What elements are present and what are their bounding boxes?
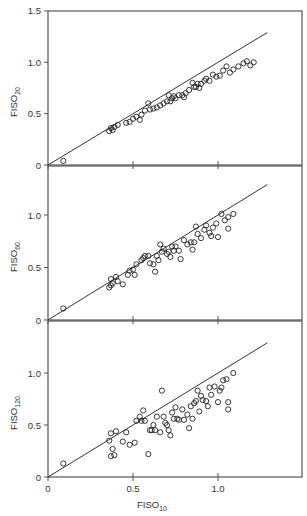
data-point bbox=[190, 247, 195, 252]
data-point bbox=[168, 99, 173, 104]
data-point bbox=[120, 282, 125, 287]
y-tick-label: 0.5 bbox=[28, 108, 41, 119]
data-point bbox=[187, 87, 192, 92]
y-tick-label: 1.0 bbox=[28, 368, 41, 379]
data-point bbox=[146, 452, 151, 457]
identity-line bbox=[48, 33, 267, 165]
y-tick-label: 1.0 bbox=[28, 57, 41, 68]
data-point bbox=[248, 63, 253, 68]
y-tick-label: 0 bbox=[36, 472, 41, 483]
data-point bbox=[217, 73, 222, 78]
data-point bbox=[124, 120, 129, 125]
data-point bbox=[188, 404, 193, 409]
data-point bbox=[214, 221, 219, 226]
data-point bbox=[205, 404, 210, 409]
data-point bbox=[124, 430, 129, 435]
data-point bbox=[222, 218, 227, 223]
data-point bbox=[192, 240, 197, 245]
data-point bbox=[170, 410, 175, 415]
data-point bbox=[166, 93, 171, 98]
data-point bbox=[224, 377, 229, 382]
y-tick-label: 0 bbox=[36, 315, 41, 326]
data-point bbox=[226, 400, 231, 405]
data-point bbox=[151, 422, 156, 427]
y-tick-label: 0 bbox=[36, 160, 41, 171]
data-point bbox=[147, 107, 152, 112]
data-point bbox=[161, 414, 166, 419]
data-point bbox=[176, 417, 181, 422]
data-point bbox=[221, 378, 226, 383]
data-point bbox=[236, 64, 241, 69]
data-point bbox=[127, 442, 132, 447]
data-point bbox=[197, 409, 202, 414]
data-point bbox=[154, 414, 159, 419]
data-point bbox=[151, 106, 156, 111]
scatter-panel-120: 00.51.000.51.0FISO120 bbox=[8, 321, 302, 494]
data-point bbox=[120, 439, 125, 444]
data-point bbox=[212, 384, 217, 389]
identity-line bbox=[48, 185, 267, 320]
data-point bbox=[215, 400, 220, 405]
x-axis-label: FISO10 bbox=[137, 499, 167, 512]
data-point bbox=[168, 433, 173, 438]
data-point bbox=[231, 67, 236, 72]
data-point bbox=[141, 408, 146, 413]
y-tick-label: 0.5 bbox=[28, 262, 41, 273]
data-point bbox=[231, 370, 236, 375]
data-point bbox=[226, 226, 231, 231]
data-point bbox=[61, 461, 66, 466]
data-point bbox=[226, 407, 231, 412]
y-tick-label: 0.5 bbox=[28, 420, 41, 431]
data-point bbox=[224, 64, 229, 69]
data-point bbox=[187, 426, 192, 431]
y-axis-label: FISO60 bbox=[8, 242, 21, 272]
data-point bbox=[204, 398, 209, 403]
data-point bbox=[185, 412, 190, 417]
data-point bbox=[178, 257, 183, 262]
data-point bbox=[231, 211, 236, 216]
data-point bbox=[153, 269, 158, 274]
data-point bbox=[158, 430, 163, 435]
y-tick-label: 1.0 bbox=[28, 210, 41, 221]
identity-line bbox=[48, 343, 267, 477]
data-point bbox=[215, 234, 220, 239]
data-point bbox=[108, 431, 113, 436]
data-point bbox=[219, 385, 224, 390]
data-point bbox=[168, 254, 173, 259]
data-point bbox=[226, 215, 231, 220]
data-point bbox=[217, 388, 222, 393]
data-point bbox=[151, 262, 156, 267]
data-point bbox=[142, 108, 147, 113]
data-point bbox=[137, 117, 142, 122]
data-point bbox=[142, 418, 147, 423]
data-point bbox=[195, 388, 200, 393]
data-point bbox=[166, 428, 171, 433]
data-point bbox=[110, 446, 115, 451]
data-point bbox=[112, 453, 117, 458]
y-axis-label: FISO120 bbox=[8, 396, 21, 430]
data-point bbox=[198, 236, 203, 241]
data-point bbox=[147, 261, 152, 266]
data-point bbox=[209, 392, 214, 397]
data-point bbox=[107, 129, 112, 134]
data-point bbox=[132, 440, 137, 445]
data-point bbox=[181, 417, 186, 422]
y-tick-label: 1.5 bbox=[28, 5, 41, 16]
data-point bbox=[251, 60, 256, 65]
data-point bbox=[173, 405, 178, 410]
data-point bbox=[159, 388, 164, 393]
data-point bbox=[190, 416, 195, 421]
data-point bbox=[113, 429, 118, 434]
data-point bbox=[207, 385, 212, 390]
data-point bbox=[108, 454, 113, 459]
data-point bbox=[153, 428, 158, 433]
figure: 00.51.01.5FISO2000.51.0FISO6000.51.000.5… bbox=[0, 0, 307, 516]
data-point bbox=[176, 248, 181, 253]
scatter-panel-20: 00.51.01.5FISO20 bbox=[8, 5, 302, 170]
data-point bbox=[127, 119, 132, 124]
x-tick-label: 1.0 bbox=[211, 483, 224, 494]
x-tick-label: 0.5 bbox=[126, 483, 139, 494]
scatter-panel-60: 00.51.0FISO60 bbox=[8, 166, 302, 326]
data-point bbox=[227, 70, 232, 75]
x-tick-label: 0 bbox=[45, 483, 50, 494]
